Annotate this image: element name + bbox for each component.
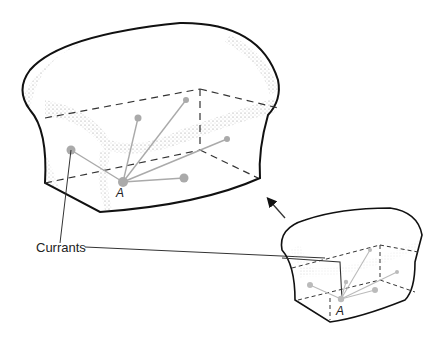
large-loaf: [23, 23, 279, 212]
point-a-label-small: A: [336, 304, 344, 318]
currant-dot: [183, 97, 189, 103]
crust-stipple-right: [225, 35, 278, 95]
reference-box: [45, 89, 278, 183]
leader-line-small: [85, 247, 325, 258]
currant-dot: [344, 280, 348, 284]
currant-dot: [307, 282, 313, 288]
arrow-icon: [270, 201, 285, 218]
currant-dot: [368, 248, 372, 252]
currant-links: [71, 100, 227, 182]
crumb-vertical: [98, 150, 112, 210]
currant-dot: [224, 136, 230, 142]
currant-dot: [372, 287, 378, 293]
point-a-dot: [338, 296, 344, 302]
currant-dot: [395, 270, 399, 274]
currant-dot: [180, 174, 189, 183]
currants-label: Currants: [36, 240, 86, 255]
crumb-band: [45, 98, 275, 154]
point-a-label-large: A: [116, 186, 124, 200]
small-loaf: [281, 208, 422, 322]
currant-dot: [135, 115, 142, 122]
diagram-canvas: [0, 0, 445, 338]
